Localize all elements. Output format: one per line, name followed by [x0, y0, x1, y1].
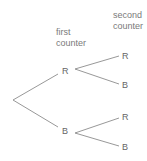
branch-r-to-r: [75, 56, 119, 69]
node-r-then-b: B: [122, 80, 128, 90]
node-b-then-r: R: [122, 112, 129, 122]
first-counter-header: first counter: [56, 27, 86, 49]
branch-root-to-first-b: [13, 100, 58, 127]
first-counter-header-line2: counter: [56, 38, 86, 49]
node-first-r: R: [62, 66, 69, 76]
node-r-then-r: R: [122, 51, 129, 61]
second-counter-header-line1: second: [113, 10, 143, 21]
branch-b-to-b: [75, 133, 119, 146]
second-counter-header-line2: counter: [113, 21, 143, 32]
branch-b-to-r: [75, 118, 119, 133]
first-counter-header-line1: first: [56, 27, 86, 38]
branch-root-to-first-r: [13, 74, 58, 100]
second-counter-header: second counter: [113, 10, 143, 32]
node-b-then-b: B: [122, 142, 128, 152]
branch-r-to-b: [75, 69, 119, 84]
node-first-b: B: [62, 126, 68, 136]
